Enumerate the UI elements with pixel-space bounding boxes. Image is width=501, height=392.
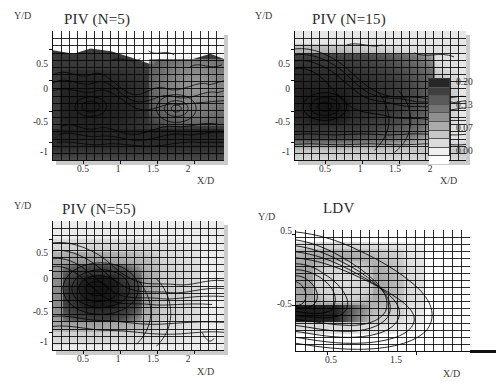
x-tick-mark [194,160,195,164]
x-tick: 0.5 [77,354,89,364]
colorbar-label: 0.20 [456,77,473,87]
colorbar-band [429,88,449,97]
y-tick-mark [49,80,53,81]
contour-core-low [313,261,372,302]
plot-area [295,230,470,352]
x-tick: 0.5 [325,355,337,365]
y-tick: 0.5 [28,248,48,258]
colorbar-band [429,79,449,88]
contour-band-020 [80,275,118,309]
y-tick: -0.5 [24,117,48,127]
colorbar-band [429,156,449,164]
x-tick: 0.5 [319,164,331,174]
y-tick: 0 [28,274,48,284]
y-tick-mark [49,301,53,302]
panel-title: LDV [323,200,354,217]
colorbar-label: 0.13 [456,100,473,110]
axis-extension [470,350,496,353]
x-axis-label: X/D [443,368,460,379]
panel-piv-n55: PIV (N=55) Y/D X/D [0,196,250,392]
panel-title: PIV (N=5) [64,11,130,28]
contour-field [53,31,224,160]
colorbar [428,78,450,156]
x-tick: 2 [186,354,191,364]
y-tick: -1 [24,147,48,157]
y-axis-label: Y/D [258,211,275,222]
x-tick: 1.5 [147,164,159,174]
y-axis-label: Y/D [14,10,31,21]
panel-ldv: LDV Y/D X/D [250,196,501,392]
colorbar-band [429,148,449,157]
x-axis-label: X/D [197,366,214,377]
colorbar-band [429,122,449,131]
y-tick-mark [49,111,53,112]
y-tick: -1 [24,337,48,347]
y-tick: 0 [28,84,48,94]
x-tick: 2 [428,164,433,174]
contour-band-020 [296,305,373,322]
contour-field [296,230,470,351]
colorbar-band [429,139,449,148]
panel-piv-n15: PIV (N=15) Y/D X/D [250,0,501,196]
x-axis-label: X/D [440,175,457,186]
contour-band-013 [53,129,224,160]
y-tick-mark [291,49,295,50]
y-tick-mark [292,305,296,306]
y-tick-mark [292,234,296,235]
y-tick-mark [291,142,295,143]
colorbar-band [429,131,449,140]
x-tick: 0.5 [77,164,89,174]
x-tick: 1.5 [147,354,159,364]
y-axis-label: Y/D [14,200,31,211]
panel-title: PIV (N=15) [312,11,386,28]
panel-title: PIV (N=55) [62,201,136,218]
y-tick: -0.5 [24,307,48,317]
panel-piv-n5: PIV (N=5) Y/D X/D [0,0,250,196]
x-tick: 1 [116,164,121,174]
colorbar-band [429,113,449,122]
x-tick: 1 [116,354,121,364]
x-tick-mark [194,350,195,354]
x-tick: 2 [186,164,191,174]
x-tick: 1.5 [389,164,401,174]
x-tick-mark [416,351,417,355]
y-tick-mark [291,111,295,112]
y-tick: -0.5 [266,117,290,127]
contour-field [53,221,224,350]
y-tick: 0.5 [28,59,48,69]
colorbar-band [429,96,449,105]
y-tick-mark [49,142,53,143]
contour-core-high [305,90,349,124]
colorbar-label: 0.00 [456,146,473,156]
y-tick: -0.5 [266,299,292,309]
y-tick: 0.5 [270,226,292,236]
plot-area [52,31,224,161]
y-tick: 0.5 [270,59,290,69]
y-tick-mark [49,270,53,271]
y-tick-mark [291,80,295,81]
y-tick-mark [49,49,53,50]
plot-area [52,221,224,351]
x-tick: 1 [358,164,363,174]
contour-band-007 [149,59,224,126]
y-tick-mark [49,239,53,240]
colorbar-label: 0.07 [456,123,473,133]
x-axis-label: X/D [197,175,214,186]
x-tick: 1.5 [390,355,402,365]
y-tick-mark [49,332,53,333]
colorbar-band [429,105,449,114]
y-tick: -1 [266,147,290,157]
y-axis-label: Y/D [255,10,272,21]
y-tick: 0 [270,84,290,94]
